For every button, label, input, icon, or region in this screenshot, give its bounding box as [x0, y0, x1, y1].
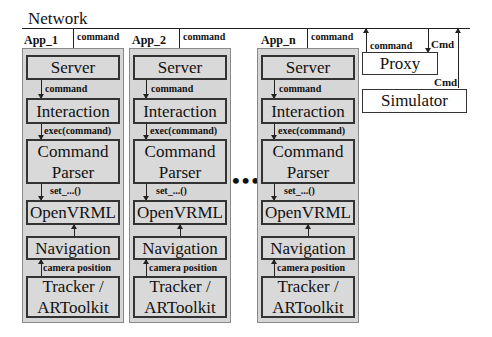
app-n-interaction-box: Interaction	[261, 98, 355, 124]
edge-label: set_...()	[284, 185, 315, 197]
arrow-up	[274, 260, 275, 276]
arrow-up	[308, 225, 309, 236]
component-label: Interaction	[143, 101, 217, 122]
app-2-tracker-box: Tracker / ARToolkit	[133, 276, 227, 318]
app-n-label: App_n	[261, 33, 296, 47]
proxy-in-edge-label: Cmd	[431, 38, 454, 50]
component-label: Interaction	[36, 101, 110, 122]
edge-label: set_...()	[50, 185, 81, 197]
component-label: Interaction	[271, 101, 345, 122]
arrow-down	[274, 184, 275, 200]
component-label: Navigation	[142, 238, 218, 259]
app-n-command-parser-box: Command Parser	[261, 139, 355, 184]
app-2-incoming-edge-label: command	[183, 31, 225, 43]
component-label: Server	[158, 57, 202, 78]
component-label: Tracker / ARToolkit	[272, 276, 343, 318]
arrow-down	[41, 124, 42, 139]
arrow-up	[41, 260, 42, 276]
app-1-command-parser-box: Command Parser	[26, 139, 120, 184]
arrow-down	[41, 80, 42, 98]
edge-label: set_...()	[156, 185, 187, 197]
edge-label: exec(command)	[44, 125, 111, 137]
arrow-up	[146, 260, 147, 276]
component-label: Navigation	[35, 238, 111, 259]
simulator-box: Simulator	[362, 89, 467, 113]
edge-label: command	[45, 83, 87, 95]
app-1-label: App_1	[24, 33, 58, 47]
simulator-out-arrow	[458, 29, 459, 88]
component-label: OpenVRML	[137, 202, 223, 223]
component-label: Tracker / ARToolkit	[37, 276, 108, 318]
component-label: OpenVRML	[30, 202, 116, 223]
component-label: Command Parser	[141, 141, 219, 183]
component-label: Tracker / ARToolkit	[144, 276, 215, 318]
app-1-openvrml-box: OpenVRML	[26, 200, 120, 225]
edge-label: command	[279, 83, 321, 95]
app-1-interaction-box: Interaction	[26, 98, 120, 124]
app-2-server-box: Server	[133, 55, 227, 80]
network-bus-line	[22, 28, 470, 29]
edge-label: exec(command)	[150, 125, 217, 137]
arrow-down	[41, 184, 42, 200]
app-2-navigation-box: Navigation	[133, 236, 227, 260]
simulator-out-edge-label: Cmd	[434, 76, 457, 88]
component-label: Command Parser	[34, 141, 112, 183]
app-n-openvrml-box: OpenVRML	[261, 200, 355, 225]
proxy-label: Proxy	[380, 54, 421, 74]
arrow-down	[146, 80, 147, 98]
proxy-out-edge-label: command	[370, 40, 412, 52]
component-label: Server	[286, 57, 330, 78]
simulator-label: Simulator	[381, 91, 448, 111]
edge-label: command	[151, 83, 193, 95]
app-n-server-box: Server	[261, 55, 355, 80]
proxy-in-arrow	[428, 29, 429, 52]
arrow-up	[180, 225, 181, 236]
edge-label: camera position	[149, 262, 217, 274]
component-label: OpenVRML	[265, 202, 351, 223]
network-label: Network	[28, 10, 87, 28]
app-1-server-box: Server	[26, 55, 120, 80]
arrow-down	[146, 124, 147, 139]
arrow-up	[74, 225, 75, 236]
component-label: Server	[51, 57, 95, 78]
app-n-navigation-box: Navigation	[261, 236, 355, 260]
proxy-box: Proxy	[362, 52, 438, 75]
app-n-incoming-edge-label: command	[311, 31, 353, 43]
app-1-tracker-box: Tracker / ARToolkit	[26, 276, 120, 318]
app-1-navigation-box: Navigation	[26, 236, 120, 260]
arrow-down	[146, 184, 147, 200]
component-label: Command Parser	[269, 141, 347, 183]
component-label: Navigation	[270, 238, 346, 259]
app-n-tracker-box: Tracker / ARToolkit	[261, 276, 355, 318]
arrow-down	[274, 124, 275, 139]
edge-label: camera position	[277, 262, 345, 274]
arrow-down	[274, 80, 275, 98]
app-2-openvrml-box: OpenVRML	[133, 200, 227, 225]
app-1-incoming-edge-label: command	[77, 31, 119, 43]
app-2-interaction-box: Interaction	[133, 98, 227, 124]
proxy-out-arrow	[366, 29, 367, 52]
app-2-command-parser-box: Command Parser	[133, 139, 227, 184]
edge-label: exec(command)	[278, 125, 345, 137]
edge-label: camera position	[43, 262, 111, 274]
app-2-label: App_2	[132, 33, 166, 47]
